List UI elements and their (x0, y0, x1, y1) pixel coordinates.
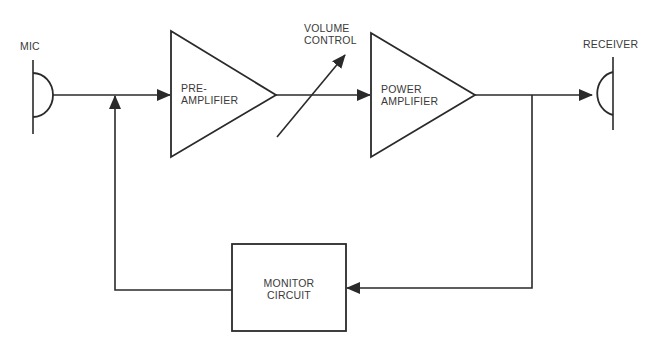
wire-monitor-to-junction (115, 96, 232, 290)
amplifier-block-diagram: MIC PRE- AMPLIFIER VOLUME CONTROL POWER … (0, 0, 663, 343)
preamp-label: PRE- AMPLIFIER (181, 82, 238, 106)
preamp-label-line2: AMPLIFIER (181, 94, 238, 106)
poweramp-label-line1: POWER (381, 83, 438, 95)
monitor-circuit-label: MONITOR CIRCUIT (232, 277, 346, 301)
receiver-icon (597, 57, 613, 130)
monitor-label-line2: CIRCUIT (232, 289, 346, 301)
volume-control-label: VOLUME CONTROL (304, 22, 357, 46)
poweramp-label: POWER AMPLIFIER (381, 83, 438, 107)
receiver-label: RECEIVER (583, 38, 638, 50)
monitor-label-line1: MONITOR (232, 277, 346, 289)
volume-label-line2: CONTROL (304, 34, 357, 46)
poweramp-label-line2: AMPLIFIER (381, 95, 438, 107)
preamp-label-line1: PRE- (181, 82, 238, 94)
mic-label: MIC (20, 40, 40, 52)
wire-output-to-monitor (347, 95, 532, 288)
volume-control-arrow-icon (277, 55, 345, 137)
volume-label-line1: VOLUME (304, 22, 357, 34)
microphone-icon (33, 60, 53, 134)
